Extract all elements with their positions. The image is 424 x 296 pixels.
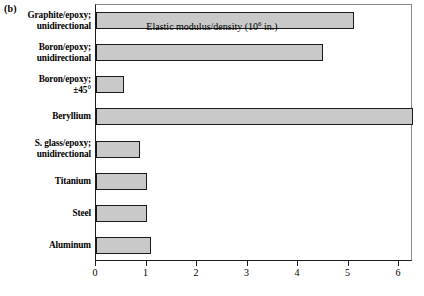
category-label-line: unidirectional [0,149,91,160]
category-label-line: unidirectional [0,53,91,64]
x-tick-label: 1 [134,267,158,278]
x-tick [348,261,349,266]
x-tick-label: 4 [285,267,309,278]
category-label-line: Titanium [0,176,91,187]
bar-row [96,134,411,166]
category-label: Aluminum [0,240,91,251]
category-label-line: Aluminum [0,240,91,251]
x-tick-label: 3 [235,267,259,278]
category-label-line: S. glass/epoxy; [0,138,91,149]
category-label: Boron/epoxy;unidirectional [0,42,91,64]
bar-row [96,69,411,101]
category-label: S. glass/epoxy;unidirectional [0,138,91,160]
figure-panel-b: (b) Graphite/epoxy;unidirectionalBoron/e… [0,0,424,296]
bar-row [96,101,411,133]
bar-row [96,166,411,198]
category-label: Beryllium [0,111,91,122]
x-tick-label: 2 [184,267,208,278]
category-label-line: ±45° [0,85,91,96]
x-axis: 0123456 [95,261,415,295]
category-label-line: Beryllium [0,111,91,122]
x-axis-title: Elastic modulus/density (106 in.) [0,20,424,32]
category-label-line: Boron/epoxy; [0,42,91,53]
bar [96,173,147,190]
bar [96,237,151,254]
x-tick-label: 5 [336,267,360,278]
bar [96,141,140,158]
category-label: Steel [0,208,91,219]
x-tick-label: 0 [83,267,107,278]
x-tick [247,261,248,266]
category-axis-labels: Graphite/epoxy;unidirectionalBoron/epoxy… [0,4,91,261]
bar-row [96,230,411,262]
x-tick [196,261,197,266]
bar-row [96,37,411,69]
category-label-line: Steel [0,208,91,219]
category-label: Titanium [0,176,91,187]
x-tick [297,261,298,266]
bar [96,205,147,222]
x-tick-label: 6 [386,267,410,278]
bar [96,44,323,61]
category-label-line: Boron/epoxy; [0,74,91,85]
bar-row [96,198,411,230]
category-label-line: Graphite/epoxy; [0,10,91,21]
plot-area [95,4,412,261]
x-tick [398,261,399,266]
x-tick [146,261,147,266]
category-label: Boron/epoxy;±45° [0,74,91,96]
x-axis-title-exponent: 6 [258,20,262,28]
bar [96,76,124,93]
bar [96,108,413,125]
x-tick [95,261,96,266]
